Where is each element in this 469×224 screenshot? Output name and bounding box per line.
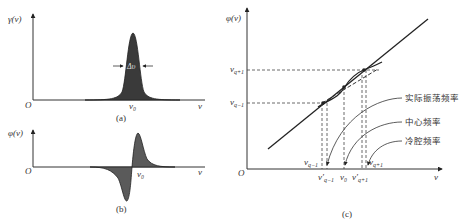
ytick-q-plus: νq+1 bbox=[230, 64, 244, 75]
panel-a-center-label: ν₀ bbox=[129, 101, 136, 111]
annotation-arrow-actual bbox=[327, 98, 402, 165]
xtick-q-minus-prime: ν′q−1 bbox=[318, 172, 334, 183]
xtick-v0: ν₀ bbox=[340, 172, 347, 182]
xtick-q-plus-prime: ν′q+1 bbox=[352, 172, 368, 183]
panel-c-xlabel: ν bbox=[434, 172, 438, 182]
xtick-q-plus: νq+1 bbox=[369, 157, 383, 168]
panel-b-origin: O bbox=[25, 166, 32, 176]
width-label: Δυ bbox=[126, 62, 136, 71]
panel-c-ylabel: φ(ν) bbox=[226, 13, 241, 23]
panel-b-ylabel: φ(ν) bbox=[8, 128, 23, 138]
panel-a-ylabel: γ(ν) bbox=[8, 14, 22, 24]
panel-b-center-label: ν₀ bbox=[137, 169, 144, 179]
annotation-actual-frequency: 实际振荡频率 bbox=[405, 93, 459, 103]
point-q-plus bbox=[362, 68, 366, 72]
panel-a-caption: (a) bbox=[116, 113, 126, 123]
xtick-q-minus: νq−1 bbox=[304, 157, 318, 168]
panel-a-origin: O bbox=[25, 100, 32, 110]
annotation-cold-cavity-frequency: 冷腔频率 bbox=[405, 136, 441, 146]
ytick-q-minus: νq−1 bbox=[230, 97, 244, 108]
dispersion-curve-negative bbox=[90, 167, 132, 201]
center-dashed-line bbox=[322, 69, 378, 103]
panel-c-caption: (c) bbox=[342, 209, 352, 219]
panel-c-origin: O bbox=[238, 168, 245, 178]
panel-a-xlabel: ν bbox=[198, 101, 202, 111]
panel-a: Δυ γ(ν) O ν₀ ν (a) bbox=[8, 14, 205, 123]
panel-b: φ(ν) O ν₀ ν (b) bbox=[8, 128, 205, 214]
panel-b-xlabel: ν bbox=[198, 167, 202, 177]
cold-cavity-line bbox=[268, 19, 428, 149]
annotation-center-frequency: 中心频率 bbox=[405, 117, 441, 127]
point-center bbox=[342, 85, 346, 89]
dispersion-curve-positive bbox=[132, 133, 175, 167]
point-q-minus bbox=[321, 101, 325, 105]
panel-b-caption: (b) bbox=[116, 204, 127, 214]
figure-canvas: Δυ γ(ν) O ν₀ ν (a) φ(ν) O ν₀ ν (b) bbox=[0, 0, 469, 224]
panel-c: 实际振荡频率 中心频率 冷腔频率 φ(ν) O ν νq+1 νq−1 νq−1… bbox=[226, 8, 459, 219]
annotation-arrow-center bbox=[345, 122, 402, 165]
